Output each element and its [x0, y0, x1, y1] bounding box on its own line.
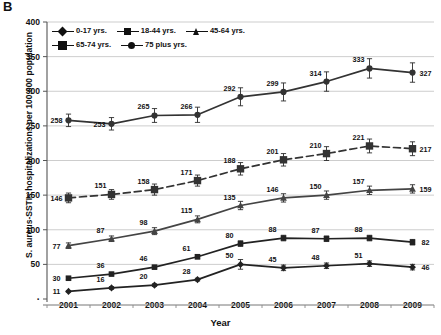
data-point-marker [65, 117, 71, 123]
data-point-label: 253 [94, 119, 106, 128]
data-point-label: 61 [183, 243, 191, 252]
data-point-marker [151, 282, 158, 289]
data-point-label: 82 [422, 238, 430, 247]
data-point-label: 201 [267, 146, 279, 155]
data-point-label: 157 [353, 177, 365, 186]
data-point-marker [194, 177, 201, 184]
data-point-marker [65, 288, 72, 295]
data-point-marker [409, 145, 416, 152]
data-point-marker [194, 112, 200, 118]
data-point-marker [324, 236, 330, 242]
data-point-marker [280, 156, 287, 163]
data-point-marker [237, 165, 244, 172]
data-point-marker [323, 150, 330, 157]
data-point-label: 210 [310, 140, 322, 149]
data-point-marker [238, 241, 244, 247]
data-point-marker [366, 65, 372, 71]
data-point-marker [323, 78, 329, 84]
data-point-label: 171 [181, 167, 193, 176]
data-point-label: 292 [224, 83, 236, 92]
data-point-label: 46 [140, 254, 148, 263]
series-line [69, 189, 413, 246]
data-point-marker [237, 94, 243, 100]
data-point-marker [109, 271, 115, 277]
data-point-label: 146 [267, 184, 279, 193]
data-point-marker [108, 191, 115, 198]
data-point-marker [151, 186, 158, 193]
data-point-marker [152, 264, 158, 270]
data-point-label: 299 [267, 78, 279, 87]
data-point-label: 20 [140, 272, 148, 281]
data-point-marker [237, 261, 244, 268]
data-point-label: 327 [420, 68, 432, 77]
data-point-label: 151 [95, 181, 107, 190]
data-point-marker [151, 112, 157, 118]
data-point-label: 265 [138, 102, 150, 111]
data-point-label: 80 [226, 230, 234, 239]
data-point-marker [410, 239, 416, 245]
data-point-label: 28 [183, 266, 191, 275]
data-point-label: 159 [420, 184, 432, 193]
data-point-marker [65, 194, 72, 201]
data-point-label: 87 [97, 225, 105, 234]
data-point-label: 135 [224, 192, 236, 201]
data-point-label: 77 [53, 241, 61, 250]
data-point-label: 45 [269, 254, 277, 263]
data-point-label: 11 [53, 287, 61, 296]
data-point-label: 115 [181, 206, 193, 215]
chart-plot-area [0, 0, 441, 335]
data-point-marker [195, 254, 201, 260]
data-point-label: 88 [269, 225, 277, 234]
data-point-marker [280, 89, 286, 95]
data-point-marker [194, 276, 201, 283]
data-point-label: 221 [353, 132, 365, 141]
data-point-label: 217 [420, 144, 432, 153]
data-point-label: 51 [355, 250, 363, 259]
data-point-label: 46 [422, 263, 430, 272]
data-point-label: 258 [51, 116, 63, 125]
data-point-marker [367, 235, 373, 241]
data-point-label: 50 [226, 251, 234, 260]
data-point-marker [108, 121, 114, 127]
data-point-marker [366, 142, 373, 149]
figure-panel-b: B S. aureus-SSTIs hospitalizations per 1… [0, 0, 441, 335]
data-point-label: 48 [312, 252, 320, 261]
data-point-label: 150 [310, 182, 322, 191]
data-point-marker [409, 69, 415, 75]
data-point-label: 333 [353, 55, 365, 64]
data-point-label: 266 [181, 101, 193, 110]
data-point-marker [108, 284, 115, 291]
data-point-label: 16 [97, 274, 105, 283]
data-point-label: 30 [53, 274, 61, 283]
data-point-label: 98 [140, 218, 148, 227]
data-point-marker [281, 235, 287, 241]
data-point-label: 36 [97, 261, 105, 270]
data-point-label: 88 [355, 225, 363, 234]
data-point-label: 146 [51, 193, 63, 202]
data-point-label: 188 [224, 155, 236, 164]
data-point-label: 314 [310, 68, 322, 77]
data-point-label: 158 [138, 176, 150, 185]
data-point-label: 87 [312, 225, 320, 234]
data-point-marker [66, 275, 72, 281]
